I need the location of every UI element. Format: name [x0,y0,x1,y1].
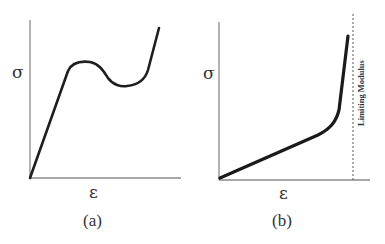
panel-a-caption: (a) [83,211,102,230]
panel-a-x-label: ε [89,182,98,202]
limiting-modulus-label: Limiting Modulus [356,59,366,126]
panel-a-y-label: σ [12,62,24,82]
panel-b-y-label: σ [203,63,215,83]
panel-b: σ ε (b) Limiting Modulus [203,14,370,230]
panel-a: σ ε (a) [12,20,181,230]
panel-b-x-label: ε [279,183,288,203]
panel-b-stress-strain-curve [220,36,348,178]
stress-strain-diagrams: σ ε (a) σ ε (b) Limiting Modulus [0,0,385,244]
panel-b-caption: (b) [272,211,292,230]
panel-a-stress-strain-curve [30,28,159,178]
